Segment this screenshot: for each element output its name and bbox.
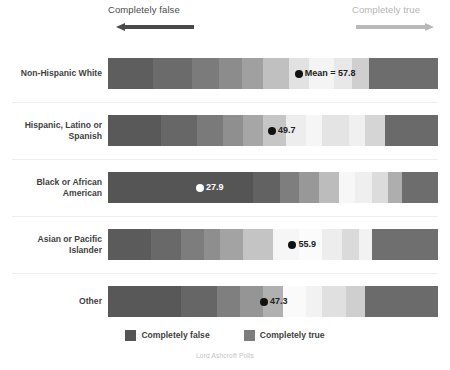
bar-segment	[242, 58, 263, 89]
bar-segment	[243, 229, 273, 260]
mean-value-label: 47.3	[270, 297, 288, 306]
stacked-bar	[108, 229, 438, 260]
bar-segment	[365, 115, 385, 146]
mean-value-label: 27.9	[206, 183, 224, 192]
bar-segment	[402, 172, 438, 203]
legend-item[interactable]: Completely false	[125, 330, 209, 341]
scale-anchor-label-false: Completely false	[108, 4, 180, 15]
bar-segment	[388, 172, 401, 203]
chart-row: Black or African American27.9	[0, 159, 450, 216]
chart-legend: Completely falseCompletely true	[0, 326, 450, 344]
bar-segment	[253, 172, 279, 203]
mean-dot-icon	[196, 184, 204, 192]
legend-label: Completely false	[141, 330, 209, 340]
bar-segment	[365, 286, 438, 317]
mean-marker: 55.9	[288, 229, 316, 260]
mean-marker: 49.7	[268, 115, 296, 146]
source-credit: Lord Ashcroft Polls	[0, 352, 450, 359]
row-category-label: Hispanic, Latino or Spanish	[6, 102, 102, 159]
bar-segment	[385, 115, 438, 146]
bar-segment	[192, 58, 218, 89]
legend-item[interactable]: Completely true	[244, 330, 325, 341]
row-category-label: Asian or Pacific Islander	[6, 216, 102, 273]
bar-segment	[306, 286, 323, 317]
legend-label: Completely true	[260, 330, 325, 340]
stacked-bar	[108, 58, 438, 89]
bar-segment	[306, 115, 323, 146]
mean-dot-icon	[288, 241, 296, 249]
bar-segment	[280, 172, 300, 203]
bar-segment	[243, 115, 263, 146]
bar-segment	[161, 115, 197, 146]
chart-row: Hispanic, Latino or Spanish49.7	[0, 102, 450, 159]
mean-dot-icon	[268, 127, 276, 135]
bar-segment	[181, 229, 204, 260]
mean-marker: Mean = 57.8	[295, 58, 356, 89]
bar-segment	[342, 229, 359, 260]
mean-marker: 47.3	[260, 286, 288, 317]
bar-segment	[339, 172, 356, 203]
mean-value-label: 55.9	[298, 240, 316, 249]
stacked-bar	[108, 172, 438, 203]
bar-segment	[181, 286, 217, 317]
bar-segment	[223, 115, 243, 146]
bar-segment	[108, 115, 161, 146]
legend-swatch-false	[125, 330, 136, 341]
bar-segment	[108, 286, 181, 317]
mean-value-label: Mean = 57.8	[305, 69, 356, 78]
mean-dot-icon	[260, 298, 268, 306]
bar-segment	[197, 115, 223, 146]
bar-segment	[369, 58, 438, 89]
legend-swatch-true	[244, 330, 255, 341]
bar-segment	[204, 229, 221, 260]
arrow-left-icon	[116, 22, 194, 34]
bar-segment	[372, 172, 389, 203]
row-category-label: Other	[6, 273, 102, 330]
bar-segment	[220, 229, 243, 260]
bar-segment	[299, 172, 319, 203]
chart-row: Other47.3	[0, 273, 450, 330]
bar-segment	[372, 229, 438, 260]
scale-anchor-label-true: Completely true	[352, 4, 420, 15]
bar-segment	[108, 172, 253, 203]
bar-segment	[319, 172, 339, 203]
arrow-right-icon	[356, 22, 434, 34]
bar-segment	[151, 229, 181, 260]
bar-segment	[359, 229, 372, 260]
mean-value-label: 49.7	[278, 126, 296, 135]
bar-segment	[322, 115, 348, 146]
bar-segment	[355, 172, 372, 203]
bar-segment	[322, 229, 342, 260]
bar-segment	[263, 58, 289, 89]
bar-segment	[153, 58, 193, 89]
mean-marker: 27.9	[196, 172, 224, 203]
bar-segment	[322, 286, 345, 317]
bar-segment	[108, 229, 151, 260]
row-category-label: Black or African American	[6, 159, 102, 216]
row-category-label: Non-Hispanic White	[6, 45, 102, 102]
chart-row: Asian or Pacific Islander55.9	[0, 216, 450, 273]
mean-dot-icon	[295, 70, 303, 78]
bar-segment	[219, 58, 242, 89]
chart-row: Non-Hispanic WhiteMean = 57.8	[0, 45, 450, 102]
likert-chart: Completely false Completely true Non-His…	[0, 0, 450, 370]
bar-segment	[217, 286, 240, 317]
bar-segment	[349, 115, 366, 146]
bar-segment	[346, 286, 366, 317]
bar-segment	[108, 58, 153, 89]
